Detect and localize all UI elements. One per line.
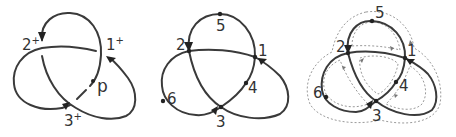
- small-arrow-icon: [394, 94, 398, 98]
- vertex-6-marker: [161, 99, 165, 103]
- vertex-6-marker: [324, 95, 328, 99]
- strand-diagonal: [189, 51, 288, 118]
- vertex-4-marker: [394, 80, 398, 84]
- dashed-top-lobe: [352, 22, 400, 50]
- vertex-5-marker: [218, 12, 222, 16]
- trefoil-figure: 2+ 1+ 3+ p 2 1 3 5 4 6: [0, 0, 456, 137]
- vertex-label-1: 1: [407, 42, 417, 60]
- crossing-label-2: 2+: [22, 35, 40, 54]
- crossing-label-3: 3+: [64, 111, 82, 130]
- small-arrow-icon: [360, 58, 364, 63]
- point-p-marker: [91, 79, 95, 83]
- strand-p-to-3: [77, 90, 86, 99]
- vertex-label-2: 2: [336, 38, 346, 56]
- vertex-label-1: 1: [258, 42, 268, 60]
- strand-horizontal: [322, 52, 405, 112]
- vertex-3-marker: [219, 105, 223, 109]
- vertex-label-3: 3: [372, 107, 382, 125]
- strand-top-loop: [348, 21, 405, 101]
- vertex-5-marker: [370, 19, 374, 23]
- vertex-label-6: 6: [167, 90, 177, 108]
- panel-a-knot-diagram: 2+ 1+ 3+ p: [14, 13, 136, 130]
- vertex-label-6: 6: [313, 84, 323, 102]
- vertex-label-4: 4: [399, 77, 409, 95]
- vertex-1-marker: [253, 55, 257, 59]
- panel-c-knot-diagram: 2 1 3 5 4 6: [307, 4, 441, 125]
- strand-horizontal: [14, 47, 96, 109]
- panel-b-knot-diagram: 2 1 3 5 4 6: [161, 12, 288, 131]
- vertex-2-marker: [187, 49, 191, 53]
- small-arrow-icon: [390, 46, 394, 51]
- vertex-label-5: 5: [375, 4, 385, 22]
- vertex-label-3: 3: [216, 113, 226, 131]
- crossing-label-1: 1+: [106, 35, 124, 54]
- vertex-3-marker: [374, 99, 378, 103]
- vertex-2-marker: [346, 51, 350, 55]
- vertex-label-4: 4: [248, 79, 258, 97]
- point-label-p: p: [97, 76, 108, 96]
- vertex-label-2: 2: [176, 36, 186, 54]
- vertex-label-5: 5: [216, 17, 226, 35]
